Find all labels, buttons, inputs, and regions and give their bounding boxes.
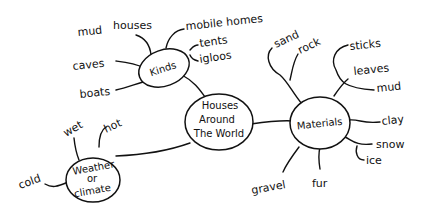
leaf-sticks: sticks (349, 37, 382, 53)
leaf-mud: mud (77, 23, 103, 39)
connector-tents (190, 45, 198, 50)
leaf-mud-material: mud (376, 79, 402, 95)
kinds-node: Kinds (133, 42, 194, 94)
leaf-hot: hot (102, 116, 124, 136)
leaf-boats: boats (79, 85, 111, 101)
leaf-wet: wet (61, 118, 85, 140)
leaf-fur: fur (312, 177, 328, 190)
connector-cold (45, 182, 68, 186)
materials-node: Materials (290, 97, 350, 149)
connector-mud-houses (136, 35, 151, 55)
leaf-caves: caves (72, 57, 105, 73)
connector-boats (116, 82, 143, 90)
leaf-clay: clay (381, 113, 405, 128)
connector-center-materials (251, 121, 293, 124)
leaf-mobile-homes: mobile homes (185, 12, 264, 33)
leaf-ice: ice (366, 154, 382, 167)
mind-map: Kinds Houses Around The World Materials … (0, 0, 434, 219)
connector-wet (74, 138, 79, 160)
center-node: Houses Around The World (185, 94, 253, 150)
weather-line-2: or (87, 173, 98, 184)
connector-clay (349, 120, 380, 123)
center-line-3: The World (193, 128, 244, 139)
connector-igloos (190, 55, 198, 61)
connector-leaves (334, 79, 348, 96)
center-line-2: Around (199, 114, 235, 125)
connector-snow (345, 137, 372, 144)
connector-rock (290, 54, 298, 80)
connector-center-weather (116, 143, 190, 156)
leaf-houses: houses (113, 19, 152, 32)
center-line-1: Houses (202, 100, 239, 111)
leaf-cold: cold (17, 172, 43, 192)
connector-ice (356, 146, 364, 160)
connector-gravel (283, 147, 299, 172)
connector-fur (319, 147, 320, 169)
weather-node: Weather or climate (66, 158, 120, 202)
leaf-igloos: igloos (199, 49, 233, 66)
leaf-leaves: leaves (353, 61, 390, 78)
connector-center-kinds (182, 75, 205, 97)
leaf-tents: tents (199, 33, 229, 50)
leaf-gravel: gravel (250, 178, 286, 197)
leaf-snow: snow (376, 138, 404, 151)
connector-mobile-homes (166, 29, 184, 48)
